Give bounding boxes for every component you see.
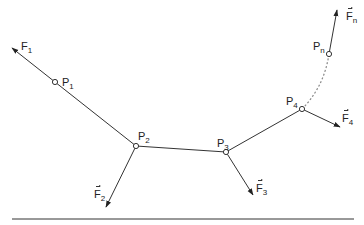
force-arrow-f1 [12, 48, 55, 82]
force-arrow-f2 [106, 146, 136, 207]
force-label-f4: F4 [342, 113, 353, 127]
point-label-subscript: 2 [145, 136, 149, 145]
point-label-p4: P4 [286, 96, 298, 110]
segment-p3-p4 [226, 109, 302, 152]
point-label-p2: P2 [138, 131, 150, 145]
chain-segments [136, 54, 329, 152]
force-label-letter: F [256, 183, 263, 194]
force-label-subscript: 4 [349, 118, 353, 127]
force-label-fn: Fn [346, 11, 357, 25]
chain-force-diagram [0, 0, 364, 225]
force-label-letter: F [346, 11, 353, 22]
point-label-subscript: 4 [293, 101, 297, 110]
segment-p1-p2 [55, 82, 136, 146]
point-label-p3: P3 [217, 138, 229, 152]
force-arrow-f3 [226, 152, 253, 195]
force-label-f2: F2 [94, 189, 105, 203]
force-label-f3: F3 [256, 183, 267, 197]
segment-p4-pn-dashed [302, 54, 329, 109]
force-label-letter: F [342, 113, 349, 124]
force-label-letter: F [21, 40, 28, 52]
force-label-subscript: 3 [263, 188, 267, 197]
point-label-pn: Pn [313, 41, 325, 55]
segment-p2-p3 [136, 146, 226, 152]
point-p4-marker [299, 106, 304, 111]
point-label-p1: P1 [62, 77, 74, 91]
point-label-subscript: 3 [224, 143, 228, 152]
force-label-subscript: 2 [101, 194, 105, 203]
point-p1-marker [52, 79, 57, 84]
point-label-subscript: 1 [69, 82, 73, 91]
force-label-subscript: 1 [28, 46, 32, 55]
force-label-letter: F [94, 189, 101, 200]
force-label-f1: F1 [21, 41, 32, 55]
force-arrow-fn [329, 10, 337, 54]
point-label-subscript: n [320, 46, 324, 55]
point-pn-marker [326, 51, 331, 56]
force-label-subscript: n [353, 16, 357, 25]
force-arrow-f4 [302, 109, 340, 127]
